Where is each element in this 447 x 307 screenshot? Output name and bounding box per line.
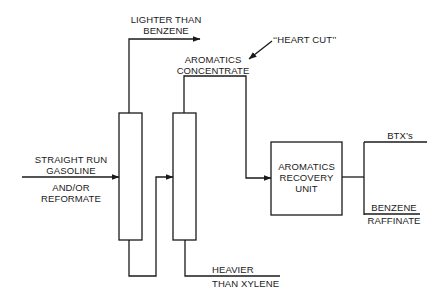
heavier-label-line2: THAN XYLENE xyxy=(212,278,279,289)
lighter-label-line2: BENZENE xyxy=(126,25,206,36)
feed-label-line4: REFORMATE xyxy=(34,193,108,204)
recovery-label-line1: AROMATICS xyxy=(271,161,342,172)
heavier-label-line1: HEAVIER xyxy=(212,264,254,275)
feed-label-line3: AND/OR xyxy=(34,182,108,193)
raffinate-label-line1: BENZENE xyxy=(364,202,424,213)
process-flow-diagram: STRAIGHT RUN GASOLINE AND/OR REFORMATE L… xyxy=(0,0,447,307)
recovery-label-line2: RECOVERY xyxy=(271,172,342,183)
aromatics-concentrate-line xyxy=(184,76,271,178)
feed-label-line1: STRAIGHT RUN xyxy=(34,154,108,165)
col1-to-col2-line xyxy=(129,177,173,276)
recovery-label-line3: UNIT xyxy=(271,183,342,194)
aromatics-label-line1: AROMATICS xyxy=(176,54,250,65)
column-2 xyxy=(173,113,196,240)
aromatics-label-line2: CONCENTRATE xyxy=(176,65,250,76)
column-1 xyxy=(119,113,142,240)
heart-cut-label: ‘‘HEART CUT’’ xyxy=(273,34,336,45)
feed-label-line2: GASOLINE xyxy=(34,165,108,176)
lighter-label-line1: LIGHTER THAN xyxy=(126,14,206,25)
raffinate-label-line2: RAFFINATE xyxy=(364,215,424,226)
btx-label: BTX’s xyxy=(380,130,420,141)
heart-cut-pointer xyxy=(249,41,272,59)
